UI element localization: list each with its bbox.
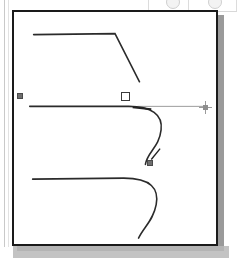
bottom-path[interactable] — [33, 178, 157, 238]
toolbar-round-button-1[interactable] — [166, 0, 180, 9]
artboard[interactable] — [12, 10, 218, 246]
left-panel-rule-inner — [8, 0, 9, 247]
direction-handle-lower[interactable] — [147, 160, 153, 166]
left-panel-rule — [4, 0, 5, 247]
handle-segment-right[interactable] — [133, 107, 152, 109]
top-path[interactable] — [34, 34, 140, 82]
anchor-point-start[interactable] — [17, 93, 23, 99]
artboard-shadow-soft — [13, 246, 229, 258]
active-path[interactable] — [30, 106, 162, 164]
artboard-vector-canvas[interactable] — [14, 12, 216, 244]
anchor-point-selected[interactable] — [121, 92, 130, 101]
vector-editor-canvas-screenshot — [0, 0, 237, 263]
toolbar-separator-right — [236, 0, 237, 11]
toolbar-round-button-2[interactable] — [208, 0, 222, 9]
